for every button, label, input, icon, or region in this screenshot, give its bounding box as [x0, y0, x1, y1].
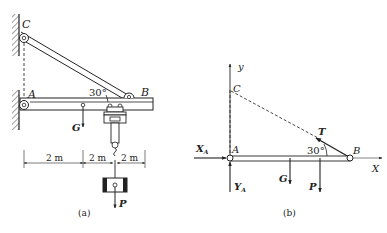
figure-a: C A B 30° G P — [12, 14, 153, 218]
caption-b: (b) — [283, 208, 296, 218]
wall — [12, 14, 19, 130]
label-t-b: T — [318, 126, 327, 137]
label-p-a: P — [118, 198, 127, 209]
trolley — [104, 104, 126, 156]
label-g-a: G — [72, 122, 81, 133]
label-g-b: G — [279, 173, 288, 184]
label-xa: XA — [195, 143, 209, 155]
label-a-a: A — [27, 88, 36, 101]
dim-3: 2 m — [121, 153, 139, 163]
angle-label-a: 30° — [89, 87, 107, 98]
label-b-a: B — [140, 86, 149, 99]
label-c-b: C — [233, 83, 241, 94]
x-axis-label: X — [371, 163, 380, 174]
dim-2: 2 m — [89, 153, 107, 163]
rod-cb — [21, 32, 129, 102]
diagram-canvas: C A B 30° G P — [0, 0, 387, 233]
figure-b: y C T X 30° A B XA YA G P (b) — [194, 61, 382, 218]
label-p-b: P — [308, 181, 317, 192]
label-b-b: B — [352, 145, 360, 156]
dashed-cb — [231, 91, 318, 138]
dim-1: 2 m — [46, 153, 64, 163]
pin-a-fbd — [227, 155, 233, 161]
caption-a: (a) — [78, 208, 90, 218]
label-a-b: A — [231, 144, 239, 155]
y-axis-label: y — [237, 61, 244, 72]
angle-label-b: 30° — [307, 145, 325, 156]
label-c-a: C — [22, 18, 31, 31]
beam-ab — [20, 98, 153, 110]
label-ya: YA — [234, 181, 246, 193]
